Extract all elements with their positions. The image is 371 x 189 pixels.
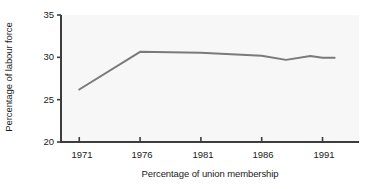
plot-background bbox=[61, 15, 359, 142]
line-chart-figure: Percentage of labour force Percentage of… bbox=[0, 0, 371, 189]
plot-area bbox=[0, 0, 371, 189]
